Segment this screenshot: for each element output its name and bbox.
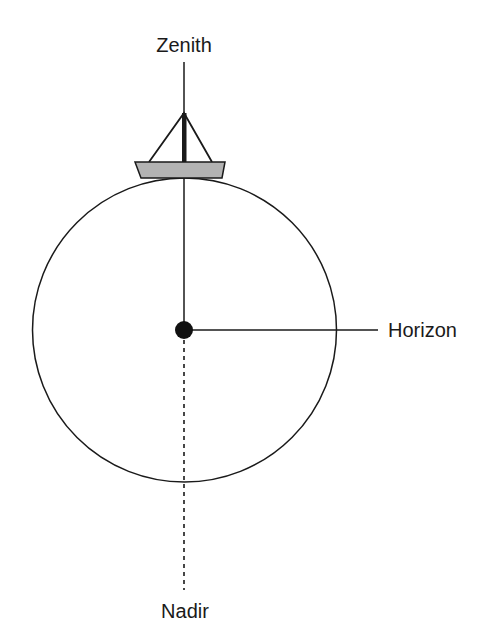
- celestial-sphere-diagram: Zenith Horizon Nadir: [0, 0, 485, 644]
- observer-dot-icon: [175, 321, 193, 339]
- nadir-label: Nadir: [161, 600, 209, 622]
- zenith-label: Zenith: [156, 34, 212, 56]
- sailboat-icon: [135, 113, 225, 178]
- horizon-label: Horizon: [388, 319, 457, 341]
